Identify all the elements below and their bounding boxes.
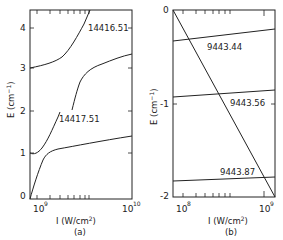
curve-14416-51 — [30, 10, 90, 68]
xtick-exp: 10 — [133, 200, 141, 207]
xtick-exp: 9 — [44, 200, 48, 207]
panel-b-ytick-neg2: -2 — [160, 191, 169, 201]
panel-a-top-ticks — [37, 10, 89, 14]
panel-a-xtick-1e10: 10 10 — [122, 200, 141, 214]
curve-upper-branch — [72, 54, 132, 110]
label-9443-87: 9443.87 — [220, 167, 255, 177]
panel-a-xlabel: I (W/cm2) — [56, 215, 96, 226]
panel-b-xtick-1e9: 10 9 — [259, 200, 274, 214]
panel-a-xtick-1e9: 10 9 — [33, 200, 48, 214]
panel-a-curves — [30, 10, 132, 199]
panel-b-ytick-neg1: -1 — [160, 99, 169, 109]
label-9443-44: 9443.44 — [207, 42, 242, 52]
xtick-base: 10 — [259, 204, 271, 214]
panel-a: 4 3 2 1 0 10 9 10 10 E (cm−1) I (W/cm2) … — [5, 10, 141, 237]
panel-b: 0 -1 -2 10 8 10 9 E (cm−1) I (W/cm2) (b)… — [148, 5, 275, 237]
xtick-exp: 8 — [187, 200, 191, 207]
label-9443-56: 9443.56 — [230, 98, 265, 108]
panel-b-bottom-ticks — [183, 191, 264, 197]
panel-b-xtick-1e8: 10 8 — [176, 200, 191, 214]
panel-b-xlabel: I (W/cm2) — [208, 215, 248, 226]
svg-text:E (cm−1): E (cm−1) — [5, 81, 16, 118]
label-14417-51: 14417.51 — [59, 114, 100, 124]
label-14416-51: 14416.51 — [88, 23, 129, 33]
curve-9443-87 — [173, 177, 275, 181]
xtick-base: 10 — [33, 204, 45, 214]
xtick-exp: 9 — [270, 200, 274, 207]
panel-a-frame — [30, 10, 132, 199]
panel-a-bottom-ticks — [37, 195, 89, 199]
xtick-base: 10 — [122, 204, 134, 214]
panel-a-ytick-1: 1 — [20, 148, 26, 158]
panel-b-ytick-0: 0 — [163, 5, 169, 15]
panel-b-ylabel: E (cm−1) — [148, 88, 159, 125]
curve-lowest-branch — [30, 136, 132, 199]
figure: 4 3 2 1 0 10 9 10 10 E (cm−1) I (W/cm2) … — [0, 0, 283, 240]
curve-9443-56 — [173, 90, 275, 97]
panel-a-ylabel: E (cm−1) — [5, 81, 16, 118]
curve-14417-51 — [30, 112, 60, 154]
panel-a-y-ticks — [30, 28, 132, 153]
panel-a-caption: (a) — [74, 227, 86, 237]
panel-b-caption: (b) — [225, 227, 237, 237]
panel-a-ytick-4: 4 — [20, 23, 26, 33]
panel-a-ytick-3: 3 — [20, 63, 26, 73]
panel-b-top-ticks — [183, 10, 264, 16]
panel-a-ytick-0: 0 — [20, 191, 26, 201]
curve-9443-44 — [173, 29, 275, 41]
svg-text:E (cm−1): E (cm−1) — [148, 88, 159, 125]
xtick-base: 10 — [176, 204, 188, 214]
panel-a-ytick-2: 2 — [20, 106, 26, 116]
